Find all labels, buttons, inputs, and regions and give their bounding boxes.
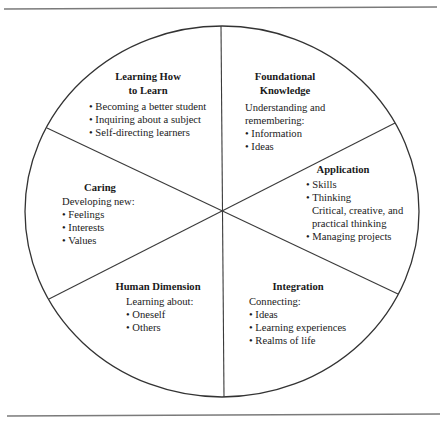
segment-item: • Managing projects (306, 231, 392, 242)
segment-application: Application • Skills • Thinking Critical… (306, 164, 404, 242)
segment-item: • Others (126, 322, 161, 333)
segment-item: • Interests (62, 222, 104, 233)
segment-item: • Ideas (245, 141, 274, 152)
segment-subitem: practical thinking (312, 218, 387, 229)
segment-title: Application (317, 164, 370, 175)
segment-intro: remembering: (245, 115, 304, 126)
segment-item: • Information (245, 128, 303, 139)
segment-intro: Developing new: (62, 196, 135, 207)
segment-item: • Becoming a better student (89, 101, 206, 112)
segment-intro: Understanding and (245, 102, 326, 113)
segment-subitem: Critical, creative, and (312, 205, 404, 216)
segment-integration: Integration Connecting: • Ideas • Learni… (249, 281, 346, 346)
segment-title: Foundational (255, 71, 316, 82)
segment-item: • Oneself (126, 309, 166, 320)
segment-item: • Self-directing learners (89, 127, 190, 138)
segment-human-dimension: Human Dimension Learning about: • Onesel… (115, 281, 200, 333)
segment-item: • Values (62, 235, 96, 246)
top-rule (4, 7, 437, 9)
segment-intro: Connecting: (249, 296, 301, 307)
segment-title: Caring (84, 182, 116, 193)
segment-title: Human Dimension (115, 281, 200, 292)
segment-caring: Caring Developing new: • Feelings • Inte… (62, 182, 135, 246)
segment-item: • Realms of life (249, 335, 316, 346)
segment-title: Knowledge (260, 85, 311, 96)
segment-title: to Learn (128, 85, 167, 96)
segment-title: Learning How (115, 71, 181, 82)
segment-item: • Ideas (249, 309, 278, 320)
segment-learning-how-to-learn: Learning How to Learn • Becoming a bette… (89, 71, 206, 138)
segment-intro: Learning about: (126, 296, 193, 307)
segment-foundational-knowledge: Foundational Knowledge Understanding and… (245, 71, 326, 152)
segment-item: • Inquiring about a subject (89, 114, 201, 125)
segment-item: • Thinking (306, 192, 352, 203)
segment-item: • Feelings (62, 209, 104, 220)
taxonomy-diagram: Learning How to Learn • Becoming a bette… (0, 0, 445, 422)
segment-title: Integration (272, 281, 323, 292)
bottom-rule (7, 414, 440, 416)
segment-item: • Skills (306, 179, 337, 190)
segment-item: • Learning experiences (249, 322, 346, 333)
